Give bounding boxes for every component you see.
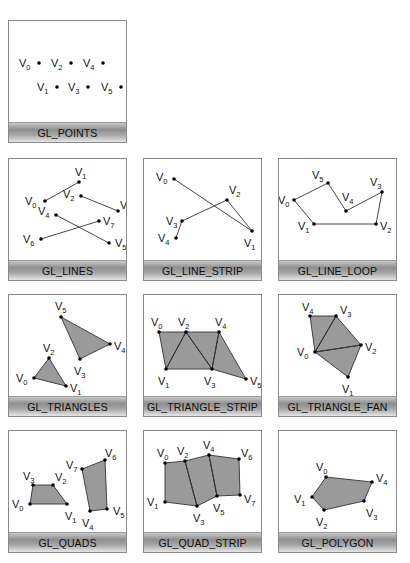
primitive-label: GL_QUAD_STRIP bbox=[144, 532, 261, 552]
panel-lines: V0V1V2V3V4V5V6V7GL_LINES bbox=[8, 158, 127, 281]
vertex-label: V0 bbox=[157, 447, 169, 462]
vertex-label: V0 bbox=[12, 498, 24, 513]
vertex-dot bbox=[97, 219, 101, 223]
polygon-drawing: V0V1V2V3V4 bbox=[279, 431, 396, 533]
line-strip-drawing: V0V1V2V3V4 bbox=[144, 159, 261, 261]
vertex-dot bbox=[312, 222, 316, 226]
vertex-label: V6 bbox=[23, 233, 35, 248]
vertex-dot bbox=[108, 342, 112, 346]
primitive-edge bbox=[81, 196, 118, 211]
panel-line-loop: V0V1V2V3V4V5GL_LINE_LOOP bbox=[278, 158, 397, 281]
vertex-label: V1 bbox=[244, 237, 256, 252]
vertex-dot bbox=[80, 467, 84, 471]
vertex-dot bbox=[346, 375, 350, 379]
vertex-dot bbox=[54, 213, 58, 217]
vertex-dot bbox=[180, 219, 184, 223]
vertex-dot bbox=[164, 367, 168, 371]
vertex-label: V1 bbox=[298, 220, 310, 235]
vertex-dot bbox=[28, 502, 32, 506]
vertex-label: V2 bbox=[177, 445, 189, 460]
vertex-dot bbox=[43, 199, 47, 203]
vertex-dot bbox=[174, 236, 178, 240]
vertex-dot bbox=[32, 376, 36, 380]
vertex-dot bbox=[64, 384, 68, 388]
vertex-dot bbox=[217, 330, 221, 334]
vertex-label: V4 bbox=[114, 340, 126, 355]
vertex-dot bbox=[79, 194, 83, 198]
vertex-label: V4 bbox=[38, 205, 50, 220]
vertex-dot bbox=[172, 177, 176, 181]
vertex-label: V3 bbox=[74, 365, 86, 380]
vertex-label: V3 bbox=[366, 507, 378, 522]
vertex-label: V7 bbox=[103, 215, 115, 230]
vertex-dot bbox=[37, 61, 41, 65]
vertex-label: V2 bbox=[178, 316, 190, 331]
vertex-dot bbox=[324, 475, 328, 479]
vertex-label: V1 bbox=[70, 382, 82, 397]
vertex-label: V3 bbox=[68, 81, 80, 96]
vertex-dot bbox=[238, 493, 242, 497]
vertex-dot bbox=[163, 500, 167, 504]
vertex-dot bbox=[69, 61, 73, 65]
vertex-label: V0 bbox=[151, 316, 163, 331]
vertex-label: V1 bbox=[75, 166, 87, 181]
vertex-dot bbox=[107, 241, 111, 245]
primitive-label: GL_POINTS bbox=[9, 122, 126, 142]
vertex-label: V0 bbox=[316, 461, 328, 476]
primitive-edge bbox=[294, 183, 328, 200]
vertex-label: V5 bbox=[113, 505, 125, 520]
vertex-dot bbox=[86, 85, 90, 89]
vertex-dot bbox=[184, 330, 188, 334]
panel-points: V0V1V2V3V4V5GL_POINTS bbox=[8, 20, 127, 143]
primitive-label: GL_LINE_LOOP bbox=[279, 260, 396, 280]
vertex-dot bbox=[157, 330, 161, 334]
vertex-label: V0 bbox=[25, 195, 37, 210]
vertex-label: V7 bbox=[66, 459, 78, 474]
vertex-label: V1 bbox=[294, 493, 306, 508]
primitive-polygon bbox=[61, 317, 110, 359]
triangle-strip-drawing: V0V1V2V3V4V5 bbox=[144, 295, 261, 397]
vertex-dot bbox=[326, 181, 330, 185]
vertex-dot bbox=[215, 494, 219, 498]
vertex-label: V0 bbox=[156, 171, 168, 186]
vertex-label: V0 bbox=[279, 194, 290, 209]
points-drawing: V0V1V2V3V4V5 bbox=[9, 21, 126, 123]
vertex-label: V3 bbox=[166, 215, 178, 230]
vertex-dot bbox=[55, 85, 59, 89]
vertex-label: V1 bbox=[342, 383, 354, 397]
vertex-label: V4 bbox=[342, 191, 354, 206]
primitive-polygon bbox=[34, 358, 66, 386]
primitive-label: GL_TRIANGLES bbox=[9, 396, 126, 416]
vertex-label: V4 bbox=[82, 517, 94, 532]
vertex-label: V5 bbox=[115, 237, 126, 252]
primitive-edge bbox=[41, 221, 99, 239]
vertex-label: V0 bbox=[297, 346, 309, 361]
primitive-label: GL_POLYGON bbox=[279, 532, 396, 552]
primitive-label: GL_TRIANGLE_FAN bbox=[279, 396, 396, 416]
vertex-dot bbox=[207, 453, 211, 457]
vertex-label: V4 bbox=[302, 301, 314, 316]
vertex-label: V4 bbox=[376, 472, 388, 487]
vertex-label: V0 bbox=[19, 57, 31, 72]
vertex-label: V6 bbox=[241, 447, 253, 462]
vertex-dot bbox=[362, 499, 366, 503]
vertex-dot bbox=[183, 459, 187, 463]
vertex-dot bbox=[359, 343, 363, 347]
vertex-dot bbox=[225, 198, 229, 202]
vertex-dot bbox=[210, 367, 214, 371]
vertex-label: V5 bbox=[55, 300, 67, 315]
vertex-label: V4 bbox=[215, 316, 227, 331]
vertex-label: V4 bbox=[158, 232, 170, 247]
primitive-label: GL_LINE_STRIP bbox=[144, 260, 261, 280]
vertex-label: V2 bbox=[43, 342, 55, 357]
vertex-label: V0 bbox=[16, 372, 28, 387]
vertex-label: V1 bbox=[147, 496, 159, 511]
vertex-dot bbox=[101, 61, 105, 65]
primitive-edge bbox=[56, 215, 109, 243]
vertex-dot bbox=[250, 229, 254, 233]
vertex-label: V1 bbox=[37, 81, 49, 96]
primitive-edge bbox=[227, 200, 252, 231]
vertex-dot bbox=[77, 180, 81, 184]
panel-quads: V0V1V2V3V4V5V6V7GL_QUADS bbox=[8, 430, 127, 553]
triangle-fan-drawing: V0V1V2V3V4 bbox=[279, 295, 396, 397]
